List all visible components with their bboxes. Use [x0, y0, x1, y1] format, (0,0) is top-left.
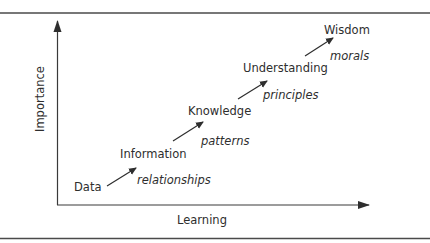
transition-relationships: relationships	[137, 173, 211, 187]
transition-morals: morals	[330, 49, 369, 63]
transition-principles: principles	[262, 88, 319, 102]
x-axis-label: Learning	[177, 213, 227, 227]
y-axis-label: Importance	[33, 66, 47, 132]
level-knowledge: Knowledge	[188, 104, 251, 118]
transition-patterns: patterns	[200, 134, 249, 148]
level-information: Information	[120, 147, 187, 161]
dikw-diagram: Importance Learning Data Information Kno…	[0, 0, 430, 243]
level-understanding: Understanding	[243, 61, 328, 75]
level-data: Data	[74, 180, 101, 194]
arrow-icon	[173, 122, 203, 141]
arrow-icon	[305, 38, 333, 56]
arrow-icon	[107, 168, 136, 186]
level-wisdom: Wisdom	[324, 23, 370, 37]
